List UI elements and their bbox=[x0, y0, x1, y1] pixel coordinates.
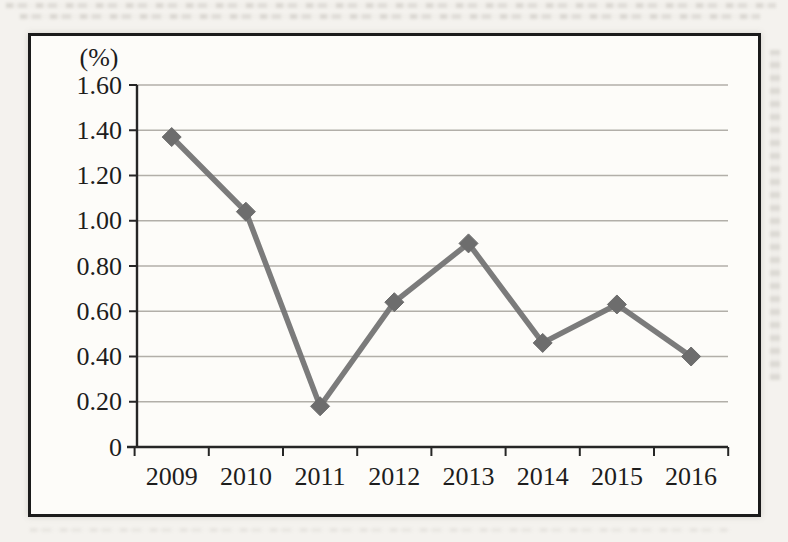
line-chart: (%) 00.200.400.600.801.001.201.401.60200… bbox=[0, 0, 788, 542]
y-tick-label: 0.80 bbox=[77, 252, 123, 281]
x-tick-label: 2013 bbox=[443, 462, 495, 491]
x-tick-label: 2016 bbox=[665, 462, 717, 491]
y-tick-label: 0.60 bbox=[77, 297, 123, 326]
x-tick-label: 2009 bbox=[146, 462, 198, 491]
x-tick-label: 2015 bbox=[591, 462, 643, 491]
y-axis-unit-label: (%) bbox=[80, 43, 119, 72]
y-tick-label: 1.40 bbox=[77, 116, 123, 145]
y-tick-label: 0.20 bbox=[77, 387, 123, 416]
scanned-page: (%) 00.200.400.600.801.001.201.401.60200… bbox=[0, 0, 788, 542]
y-tick-label: 1.60 bbox=[77, 71, 123, 100]
y-tick-label: 0.40 bbox=[77, 342, 123, 371]
y-tick-label: 1.00 bbox=[77, 206, 123, 235]
x-tick-label: 2010 bbox=[220, 462, 272, 491]
x-tick-label: 2012 bbox=[368, 462, 420, 491]
x-tick-label: 2014 bbox=[517, 462, 569, 491]
y-tick-label: 1.20 bbox=[77, 161, 123, 190]
y-tick-label: 0 bbox=[109, 433, 122, 462]
x-tick-label: 2011 bbox=[295, 462, 346, 491]
series-line bbox=[172, 137, 691, 406]
